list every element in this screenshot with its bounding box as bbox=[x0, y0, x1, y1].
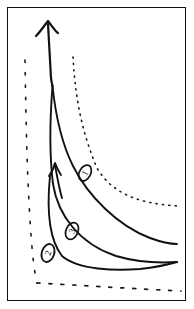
dotted-reference-curve bbox=[73, 57, 179, 206]
dotted-vertical-axis bbox=[25, 60, 37, 283]
main-arrow bbox=[36, 21, 58, 86]
series-label-1: 1 bbox=[76, 163, 94, 183]
dotted-horizontal-axis bbox=[37, 283, 181, 291]
series-label-1-text: 1 bbox=[80, 169, 91, 178]
sketch-canvas: 1 3 2 bbox=[0, 0, 194, 309]
series-label-3: 3 bbox=[63, 221, 81, 242]
arrow-up-icon bbox=[36, 21, 58, 36]
series-curve-3 bbox=[50, 86, 177, 262]
series-label-2: 2 bbox=[39, 242, 56, 263]
series-curve-1 bbox=[53, 86, 178, 244]
sketch-figure: 1 3 2 bbox=[0, 0, 194, 309]
series-label-2-text: 2 bbox=[43, 249, 54, 256]
